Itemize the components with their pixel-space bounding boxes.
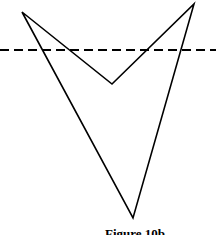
- concave-quadrilateral: [22, 4, 194, 218]
- figure-diagram: [0, 0, 216, 235]
- figure-caption: Figure 10b: [0, 227, 216, 235]
